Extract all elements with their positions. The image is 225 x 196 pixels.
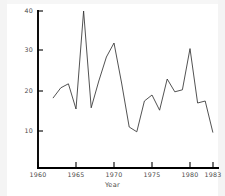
y-tick-label-30: 30: [17, 46, 33, 53]
x-axis-title: Year: [0, 181, 225, 189]
x-tick-label-1970: 1970: [101, 171, 127, 178]
y-tick-label-10: 10: [17, 127, 33, 134]
chart-figure: 40 30 20 10 1960 1965 1970 1975 1980 198…: [0, 0, 225, 196]
x-tick-label-1965: 1965: [63, 171, 89, 178]
x-tick-label-1983: 1983: [200, 171, 225, 178]
y-tick-label-40: 40: [17, 7, 33, 14]
y-tick-label-20: 20: [17, 87, 33, 94]
line-chart-plot: [0, 0, 225, 196]
x-tick-label-1975: 1975: [139, 171, 165, 178]
x-tick-label-1960: 1960: [25, 171, 51, 178]
data-series-line: [53, 11, 213, 132]
